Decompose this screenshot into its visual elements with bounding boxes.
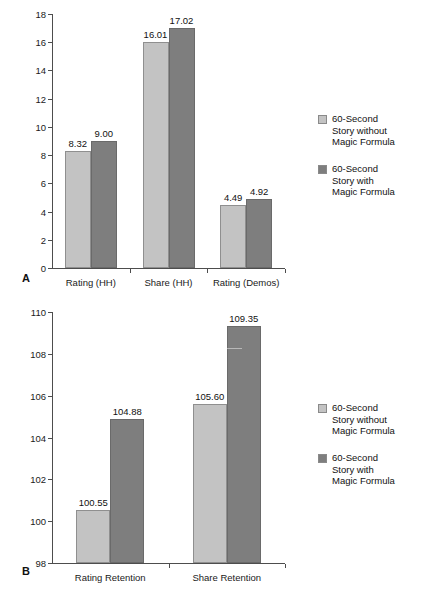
panel-a-y-tick-mark bbox=[48, 240, 52, 241]
panel-b-scan-artifact bbox=[190, 348, 242, 349]
panel-a-y-tick-label: 18 bbox=[18, 9, 46, 20]
panel-a-bar-value-label: 17.02 bbox=[170, 15, 194, 26]
panel-b-category-label: Share Retention bbox=[192, 572, 261, 583]
panel-a-y-tick-mark bbox=[48, 268, 52, 269]
panel-b-legend-label: 60-Second Story without Magic Formula bbox=[332, 402, 418, 437]
panel-b-bar bbox=[227, 326, 261, 563]
legend-swatch-dark-icon bbox=[318, 165, 327, 174]
panel-a-category-label: Rating (Demos) bbox=[213, 277, 280, 288]
panel-a-legend-item: 60-Second Story without Magic Formula bbox=[318, 113, 418, 163]
panel-b-y-tick-mark bbox=[48, 479, 52, 480]
panel-b-legend-item: 60-Second Story without Magic Formula bbox=[318, 402, 418, 452]
panel-b-y-tick-mark bbox=[48, 521, 52, 522]
panel-a-y-axis-line bbox=[52, 14, 53, 268]
panel-a-x-tick-mark bbox=[130, 269, 131, 273]
panel-b-y-tick-mark bbox=[48, 312, 52, 313]
panel-a-y-tick-label: 6 bbox=[18, 178, 46, 189]
panel-a-y-tick-mark bbox=[48, 127, 52, 128]
panel-b-y-tick-label: 102 bbox=[18, 474, 46, 485]
panel-b-y-tick-label: 110 bbox=[18, 307, 46, 318]
legend-swatch-light-icon bbox=[318, 115, 327, 124]
panel-b-x-tick-mark bbox=[285, 564, 286, 568]
panel-b-bar-value-label: 104.88 bbox=[113, 406, 142, 417]
panel-b-y-tick-label: 104 bbox=[18, 432, 46, 443]
panel-a-y-tick-label: 0 bbox=[18, 263, 46, 274]
panel-b-y-tick-mark bbox=[48, 396, 52, 397]
panel-b-bar-value-label: 109.35 bbox=[229, 313, 258, 324]
panel-a-bar bbox=[143, 42, 169, 268]
panel-a-legend-item: 60-Second Story with Magic Formula bbox=[318, 163, 418, 213]
panel-b-legend-label: 60-Second Story with Magic Formula bbox=[332, 452, 418, 487]
panel-a-category-label: Share (HH) bbox=[144, 277, 192, 288]
figure-two-panel-bar-charts: A 0246810121416188.329.00Rating (HH)16.0… bbox=[0, 0, 421, 597]
panel-a-y-tick-label: 16 bbox=[18, 37, 46, 48]
legend-swatch-light-icon bbox=[318, 404, 327, 413]
panel-a-x-tick-mark bbox=[285, 269, 286, 273]
panel-b-y-tick-label: 108 bbox=[18, 348, 46, 359]
panel-a-bar bbox=[91, 141, 117, 268]
panel-a-x-tick-mark bbox=[207, 269, 208, 273]
panel-b-category-label: Rating Retention bbox=[75, 572, 146, 583]
panel-a-bar-value-label: 16.01 bbox=[144, 29, 168, 40]
panel-b-y-tick-label: 100 bbox=[18, 516, 46, 527]
panel-b-y-tick-label: 98 bbox=[18, 558, 46, 569]
panel-a-bar bbox=[169, 28, 195, 268]
panel-b-bar-value-label: 100.55 bbox=[79, 497, 108, 508]
panel-a-bar-value-label: 4.92 bbox=[250, 186, 269, 197]
panel-a-legend: 60-Second Story without Magic Formula60-… bbox=[318, 113, 418, 213]
panel-a-y-tick-label: 10 bbox=[18, 121, 46, 132]
panel-a-y-tick-label: 12 bbox=[18, 93, 46, 104]
panel-b-legend-item: 60-Second Story with Magic Formula bbox=[318, 452, 418, 502]
panel-a-legend-label: 60-Second Story with Magic Formula bbox=[332, 163, 418, 198]
panel-a-bar bbox=[220, 205, 246, 268]
panel-a-y-tick-mark bbox=[48, 212, 52, 213]
panel-b-bar bbox=[110, 419, 144, 563]
panel-b-bar bbox=[76, 510, 110, 563]
panel-a-y-tick-mark bbox=[48, 70, 52, 71]
legend-swatch-dark-icon bbox=[318, 454, 327, 463]
panel-b-y-tick-mark bbox=[48, 354, 52, 355]
panel-b: B 98100102104106108110100.55104.88Rating… bbox=[0, 297, 421, 597]
panel-a-legend-label: 60-Second Story without Magic Formula bbox=[332, 113, 418, 148]
panel-a-bar-value-label: 8.32 bbox=[69, 138, 88, 149]
panel-a-y-tick-label: 8 bbox=[18, 150, 46, 161]
panel-a-bar bbox=[246, 199, 272, 268]
panel-a-y-tick-label: 4 bbox=[18, 206, 46, 217]
panel-b-y-tick-label: 106 bbox=[18, 390, 46, 401]
panel-a-y-tick-mark bbox=[48, 155, 52, 156]
panel-a-bar bbox=[65, 151, 91, 268]
panel-a-x-axis-line bbox=[52, 268, 285, 269]
panel-a-y-tick-mark bbox=[48, 183, 52, 184]
panel-b-y-tick-mark bbox=[48, 438, 52, 439]
panel-a-y-tick-label: 2 bbox=[18, 234, 46, 245]
panel-a-letter: A bbox=[22, 272, 30, 284]
panel-a-bar-value-label: 9.00 bbox=[95, 128, 114, 139]
panel-b-legend: 60-Second Story without Magic Formula60-… bbox=[318, 402, 418, 502]
panel-a-bar-value-label: 4.49 bbox=[224, 192, 243, 203]
panel-a: A 0246810121416188.329.00Rating (HH)16.0… bbox=[0, 0, 421, 300]
panel-a-y-tick-mark bbox=[48, 14, 52, 15]
panel-b-y-axis-line bbox=[52, 312, 53, 563]
panel-b-x-tick-mark bbox=[169, 564, 170, 568]
panel-b-y-tick-mark bbox=[48, 563, 52, 564]
panel-a-category-label: Rating (HH) bbox=[66, 277, 116, 288]
panel-a-y-tick-label: 14 bbox=[18, 65, 46, 76]
panel-a-y-tick-mark bbox=[48, 42, 52, 43]
panel-b-bar bbox=[193, 404, 227, 563]
panel-b-bar-value-label: 105.60 bbox=[195, 391, 224, 402]
panel-a-y-tick-mark bbox=[48, 99, 52, 100]
